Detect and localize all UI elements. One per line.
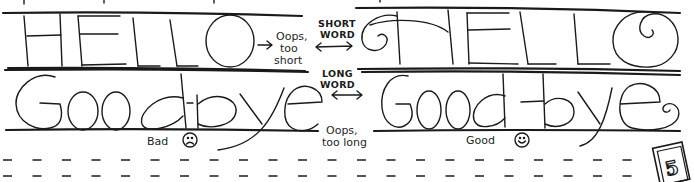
guide-line-top-right-upper (356, 8, 680, 13)
caption-good: Good (466, 133, 529, 147)
dashed-border (3, 160, 632, 176)
lettering-guide-illustration: Oops, too short Bad Oops, too long SHORT… (0, 0, 694, 182)
word-goodbye-good (382, 74, 679, 146)
guide-line-top-left-upper (3, 12, 302, 16)
word-hello-bad (24, 14, 254, 67)
caption-good-text: Good (466, 134, 495, 147)
label-long-line1: LONG (322, 68, 353, 79)
label-short-line1: SHORT (318, 18, 356, 29)
note-too-long-line2: too long (322, 136, 367, 149)
page-number-badge: 5 (653, 142, 690, 182)
smile-face-icon (515, 133, 529, 147)
word-hello-good (362, 10, 678, 67)
caption-bad: Bad (147, 133, 197, 148)
middle-labels: SHORT WORD LONG WORD (316, 18, 362, 99)
arrow-right-icon (258, 41, 272, 49)
note-too-short-line3: short (274, 54, 303, 67)
top-fragments (24, 0, 380, 4)
frown-face-icon (183, 133, 197, 147)
guide-line-bottom-left-lower (6, 129, 318, 131)
word-goodbye-bad (16, 74, 322, 150)
double-arrow-icon (316, 42, 352, 51)
right-panel: Good (356, 8, 680, 147)
left-panel: Oops, too short Bad Oops, too long (3, 12, 367, 150)
caption-bad-text: Bad (147, 135, 168, 148)
guide-line-bottom-right-upper (362, 71, 680, 75)
guide-line-bottom-right-lower (374, 130, 680, 131)
note-too-long: Oops, too long (322, 124, 367, 149)
note-too-short: Oops, too short (258, 30, 308, 67)
label-short-line2: WORD (320, 29, 355, 40)
double-arrow-icon (332, 91, 362, 99)
label-long-line2: WORD (320, 79, 355, 90)
